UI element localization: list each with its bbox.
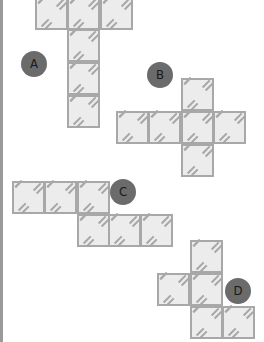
net-face xyxy=(157,273,190,306)
net-face xyxy=(222,306,255,339)
net-label-c: C xyxy=(110,179,136,205)
net-label-b: B xyxy=(147,62,173,88)
left-border xyxy=(0,0,3,342)
net-face xyxy=(44,181,77,214)
net-face xyxy=(108,214,141,247)
net-face xyxy=(190,306,223,339)
net-face xyxy=(213,111,246,144)
net-face xyxy=(77,214,110,247)
net-face xyxy=(190,273,223,306)
net-face xyxy=(181,144,214,177)
net-face xyxy=(67,0,100,30)
net-face xyxy=(148,111,181,144)
net-label-d: D xyxy=(225,278,251,304)
net-face xyxy=(181,78,214,111)
net-face xyxy=(67,29,100,62)
net-face xyxy=(116,111,149,144)
net-face xyxy=(181,111,214,144)
net-face xyxy=(140,214,173,247)
figure-canvas: ABCD xyxy=(0,0,264,342)
net-label-a: A xyxy=(21,51,47,77)
net-face xyxy=(77,181,110,214)
net-face xyxy=(190,240,223,273)
net-face xyxy=(35,0,68,30)
net-face xyxy=(67,95,100,128)
net-face xyxy=(100,0,133,30)
net-face xyxy=(12,181,45,214)
net-face xyxy=(67,62,100,95)
